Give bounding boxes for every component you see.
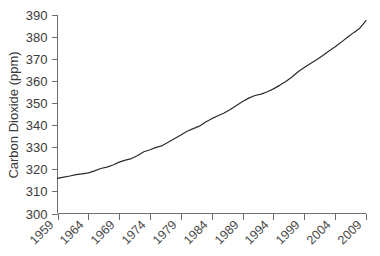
x-tick-label: 2004 [304,218,334,248]
x-tick-label: 1979 [150,218,180,248]
x-tick-label: 1969 [88,218,118,248]
x-tick-label: 1959 [27,218,57,248]
y-tick-label: 390 [26,8,48,23]
x-tick-label: 2009 [335,218,365,248]
co2-line-chart: Carbon Dioxide (ppm) 3003103203303403503… [0,0,380,256]
y-tick-group: 300310320330340350360370380390 [26,8,58,222]
chart-canvas: Carbon Dioxide (ppm) 3003103203303403503… [0,0,380,256]
x-tick-label: 1999 [273,218,303,248]
y-tick-label: 370 [26,52,48,67]
x-tick-label: 1984 [181,218,211,248]
y-tick-label: 320 [26,162,48,177]
x-tick-label: 1994 [242,218,272,248]
y-tick-label: 340 [26,118,48,133]
co2-series-line [58,21,367,179]
y-tick-label: 350 [26,96,48,111]
axes-group [58,15,367,214]
y-tick-label: 310 [26,184,48,199]
y-tick-label: 330 [26,140,48,155]
y-tick-label: 380 [26,30,48,45]
x-tick-label: 1989 [212,218,242,248]
x-tick-group: 1959196419691974197919841989199419992004… [27,214,366,248]
y-tick-label: 360 [26,74,48,89]
x-tick-label: 1974 [119,218,149,248]
y-axis-title: Carbon Dioxide (ppm) [6,51,21,178]
y-axis-title-text: Carbon Dioxide (ppm) [6,51,21,178]
x-tick-label: 1964 [57,218,87,248]
